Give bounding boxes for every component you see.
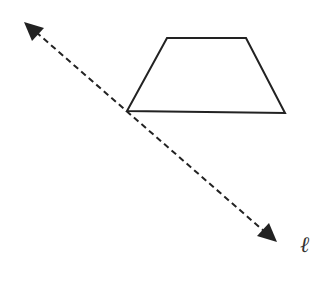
- dashed-line-l: [24, 22, 277, 242]
- diagram-canvas: ℓ: [0, 0, 315, 289]
- arrowhead-upper-left-icon: [24, 22, 44, 41]
- line-label: ℓ: [300, 232, 310, 257]
- trapezoid-shape: [127, 38, 285, 113]
- arrowhead-lower-right-icon: [257, 223, 277, 242]
